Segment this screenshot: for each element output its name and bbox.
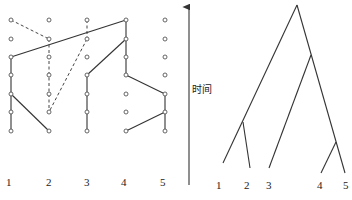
lineage-grid-diagram: 1 2 3 4 5 (6, 18, 167, 188)
time-axis-label: 时间 (192, 83, 212, 95)
column-label-1: 1 (6, 176, 12, 188)
column-label-4: 4 (121, 176, 127, 188)
coalescent-tree (223, 5, 345, 173)
column-label-2: 2 (46, 176, 52, 188)
leaf-label-4: 4 (317, 179, 323, 191)
genealogy-figure: 1 2 3 4 5 时间 1 2 3 4 5 (0, 0, 352, 200)
column-label-3: 3 (84, 176, 90, 188)
time-axis: 时间 (189, 7, 212, 185)
leaf-label-5: 5 (343, 179, 349, 191)
column-label-5: 5 (160, 176, 166, 188)
column-labels: 1 2 3 4 5 (6, 176, 166, 188)
tree-leaf-labels: 1 2 3 4 5 (216, 179, 349, 191)
leaf-label-2: 2 (244, 179, 250, 191)
dashed-lineage-edges (11, 20, 87, 112)
leaf-label-1: 1 (216, 179, 222, 191)
leaf-label-3: 3 (266, 179, 272, 191)
